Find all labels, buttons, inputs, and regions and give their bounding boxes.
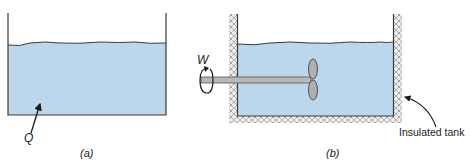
shaft: [201, 77, 311, 83]
panel-a-caption: (a): [80, 147, 93, 159]
heat-label: Q: [24, 131, 33, 145]
panel-b-caption: (b): [326, 147, 339, 159]
insulated-tank-pointer-icon: [405, 97, 436, 127]
insulated-tank-label: Insulated tank: [399, 126, 464, 138]
liquid-a: [8, 42, 166, 115]
panel-b: [200, 14, 436, 127]
work-label: W: [197, 53, 208, 67]
diagram-canvas: [0, 0, 471, 168]
panel-a: [8, 13, 166, 133]
insulation-left: [229, 14, 237, 123]
figure: Q (a) W (b) Insulated tank: [0, 0, 471, 168]
insulation-right: [394, 14, 402, 123]
insulation-bottom: [229, 116, 402, 123]
